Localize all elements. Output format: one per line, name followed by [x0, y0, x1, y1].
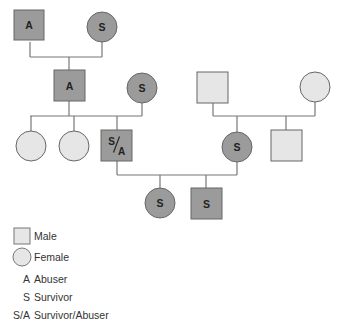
gen2-right-male [197, 72, 228, 103]
node-label: S [156, 197, 163, 209]
node-label: S [203, 198, 210, 210]
node-label: A [66, 80, 74, 92]
gen1-female: S [87, 12, 117, 42]
legend-male-square-icon [14, 228, 30, 244]
connector-lines [30, 42, 315, 188]
male-square-icon [197, 72, 228, 103]
female-circle-icon [59, 131, 89, 161]
gen1-male: A [14, 10, 44, 40]
gen2-female-spouse: S [127, 73, 157, 103]
legend-female-circle-icon [13, 248, 31, 266]
male-square-icon [271, 130, 302, 161]
node-label: A [118, 146, 125, 157]
node-label: S [233, 141, 240, 153]
node-label: S [138, 82, 145, 94]
gen3-female-2 [59, 131, 89, 161]
legend-shapes [13, 228, 31, 266]
gen3-female-s: S [222, 132, 252, 162]
node-label: A [25, 19, 33, 31]
gen3-male-sa: SA [101, 130, 132, 161]
gen4-male: S [191, 188, 222, 219]
gen4-female: S [145, 188, 175, 218]
gen3-right-male [271, 130, 302, 161]
female-circle-icon [300, 72, 330, 102]
node-label: S [98, 21, 105, 33]
female-circle-icon [16, 131, 46, 161]
node-label: S [108, 136, 115, 147]
family-members: ASASSASSS [14, 10, 330, 219]
gen2-male: A [54, 70, 85, 101]
genogram: ASASSASSS [0, 0, 342, 324]
gen2-right-female [300, 72, 330, 102]
gen3-female-1 [16, 131, 46, 161]
